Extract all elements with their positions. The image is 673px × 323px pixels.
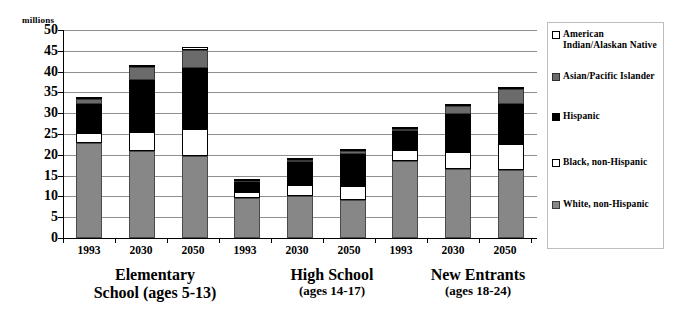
bar-segment-hispanic: [445, 114, 471, 152]
group-label-line2: (ages 18-24): [398, 284, 558, 299]
bar-segment-american-indian: [182, 47, 208, 49]
bar-1993-3: [234, 180, 260, 238]
legend-item-hispanic[interactable]: Hispanic: [552, 111, 662, 122]
bar-segment-white-nh: [287, 196, 313, 238]
y-tick-label: 15: [24, 169, 58, 183]
y-tick-label: 20: [24, 148, 58, 162]
bar-segment-hispanic: [340, 154, 366, 186]
x-tick-label: 1993: [377, 244, 425, 256]
y-axis-tick: [58, 92, 63, 93]
x-axis-tick: [167, 238, 168, 243]
bar-segment-white-nh: [234, 198, 260, 238]
bar-segment-asian-pacific: [445, 106, 471, 114]
y-axis-tick: [58, 30, 63, 31]
bar-segment-hispanic: [182, 68, 208, 129]
x-tick-label: 2050: [325, 244, 373, 256]
bar-2030-4: [287, 159, 313, 238]
legend-swatch-icon: [552, 159, 560, 167]
legend-swatch-icon: [552, 31, 560, 39]
bar-segment-black-nh: [129, 132, 155, 151]
group-label-line1: Elementary: [50, 266, 260, 284]
plot-area: [63, 30, 537, 238]
x-tick-label: 2030: [117, 244, 165, 256]
bar-segment-black-nh: [76, 133, 102, 143]
x-axis-tick: [323, 238, 324, 243]
x-axis-tick: [531, 238, 532, 243]
y-axis-tick: [58, 72, 63, 73]
x-axis-tick: [115, 238, 116, 243]
bar-2030-7: [445, 105, 471, 238]
bar-segment-hispanic: [287, 162, 313, 185]
gridline: [63, 51, 537, 52]
bar-segment-asian-pacific: [340, 151, 366, 154]
bar-segment-hispanic: [498, 104, 524, 145]
chart-legend: American Indian/Alaskan Native Asian/Pac…: [547, 22, 664, 249]
bar-segment-american-indian: [76, 97, 102, 99]
y-tick-label: 25: [24, 127, 58, 141]
gridline: [63, 30, 537, 31]
bar-segment-black-nh: [445, 152, 471, 168]
bar-segment-hispanic: [129, 80, 155, 132]
x-axis-tick: [63, 238, 64, 243]
bar-segment-black-nh: [340, 186, 366, 200]
bar-1993-0: [76, 99, 102, 238]
x-tick-label: 1993: [65, 244, 113, 256]
x-tick-label: 2030: [273, 244, 321, 256]
y-axis-tick: [58, 51, 63, 52]
legend-item-white-non-hispanic[interactable]: White, non-Hispanic: [552, 199, 662, 210]
group-labels: Elementary School (ages 5-13) High Schoo…: [40, 266, 550, 316]
bar-segment-white-nh: [129, 151, 155, 238]
x-tick-label: 2050: [169, 244, 217, 256]
legend-item-asian-pacific[interactable]: Asian/Pacific Islander: [552, 71, 662, 82]
legend-swatch-icon: [552, 113, 560, 121]
legend-item-label: Black, non-Hispanic: [563, 157, 647, 168]
y-tick-label: 5: [24, 210, 58, 224]
x-axis-tick: [219, 238, 220, 243]
y-axis-tick: [58, 196, 63, 197]
bar-2030-1: [129, 65, 155, 238]
bar-segment-white-nh: [76, 143, 102, 238]
legend-item-label: Asian/Pacific Islander: [563, 71, 655, 82]
group-label-elementary: Elementary School (ages 5-13): [50, 266, 260, 302]
x-tick-label: 1993: [221, 244, 269, 256]
bar-segment-asian-pacific: [129, 67, 155, 79]
y-tick-label: 40: [24, 65, 58, 79]
x-tick-label: 2030: [429, 244, 477, 256]
x-axis-tick: [479, 238, 480, 243]
bar-segment-asian-pacific: [76, 99, 102, 103]
bar-segment-american-indian: [129, 65, 155, 67]
y-tick-label: 50: [24, 23, 58, 37]
group-label-new-entrants: New Entrants (ages 18-24): [398, 266, 558, 298]
legend-item-american-indian[interactable]: American Indian/Alaskan Native: [552, 29, 662, 51]
bar-2050-8: [498, 88, 524, 238]
x-axis-category-labels: 1993 2030 2050 1993 2030 2050 1993 2030 …: [63, 244, 537, 260]
y-axis-tick: [58, 113, 63, 114]
y-tick-label: 45: [24, 44, 58, 58]
bar-segment-black-nh: [234, 192, 260, 197]
bar-segment-black-nh: [498, 144, 524, 170]
group-label-line1: New Entrants: [398, 266, 558, 284]
x-axis-tick: [427, 238, 428, 243]
y-axis-tick: [58, 217, 63, 218]
bar-segment-white-nh: [392, 161, 418, 238]
y-axis-tick: [58, 155, 63, 156]
bar-segment-white-nh: [182, 156, 208, 238]
group-label-high-school: High School (ages 14-17): [252, 266, 412, 298]
legend-swatch-icon: [552, 201, 560, 209]
bar-segment-asian-pacific: [182, 50, 208, 69]
y-tick-label: 10: [24, 189, 58, 203]
legend-item-black-non-hispanic[interactable]: Black, non-Hispanic: [552, 157, 662, 168]
bar-segment-american-indian: [392, 127, 418, 129]
bar-segment-american-indian: [340, 149, 366, 151]
legend-item-label: White, non-Hispanic: [563, 199, 649, 210]
stacked-bar-chart: millions 50 45 40 35 30 25 20 15 10 5 0: [0, 0, 673, 323]
bar-2050-2: [182, 47, 208, 238]
bar-segment-asian-pacific: [392, 129, 418, 131]
bar-segment-asian-pacific: [287, 160, 313, 162]
bar-segment-asian-pacific: [498, 89, 524, 104]
bar-segment-american-indian: [234, 179, 260, 181]
y-axis-tick: [58, 134, 63, 135]
legend-item-label: American Indian/Alaskan Native: [563, 29, 662, 51]
bar-segment-black-nh: [392, 150, 418, 161]
bar-segment-american-indian: [498, 87, 524, 89]
